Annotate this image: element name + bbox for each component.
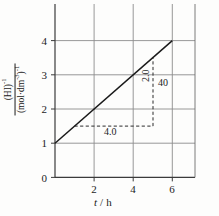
y-axis-fraction: (HI)-1 (mol·dm-3)-1 xyxy=(4,64,27,115)
y-axis-denominator-exponent: -3 xyxy=(13,74,20,79)
y-axis-denominator-tail: ) xyxy=(16,71,26,74)
chart-figure: 0 1 2 3 4 2 4 6 t / h (HI)-1 (mol·dm-3)-… xyxy=(0,0,219,216)
annotation-run-label: 4.0 xyxy=(104,127,117,137)
x-tick-label-4: 4 xyxy=(125,184,141,195)
y-axis-numerator-exponent: -1 xyxy=(0,79,7,84)
y-tick-label-4: 4 xyxy=(33,36,47,47)
y-axis-denominator-tail-exponent: -1 xyxy=(13,66,20,71)
y-tick-label-0: 0 xyxy=(33,173,47,184)
horizontal-gridlines xyxy=(55,41,195,144)
y-axis-numerator: (HI)-1 xyxy=(4,64,16,115)
x-tick-label-6: 6 xyxy=(164,184,180,195)
y-axis-title: (HI)-1 (mol·dm-3)-1 xyxy=(4,52,27,126)
x-tick-label-2: 2 xyxy=(86,184,102,195)
vertical-gridlines xyxy=(94,4,172,177)
x-axis-title: t / h xyxy=(94,196,112,208)
y-axis-numerator-text: (HI) xyxy=(3,84,13,100)
x-axis-unit: / h xyxy=(100,196,112,208)
annotation-slope-label: 40 xyxy=(158,78,168,88)
x-tick-marks xyxy=(94,177,172,181)
y-tick-label-3: 3 xyxy=(33,70,47,81)
axis-lines xyxy=(55,4,195,177)
annotation-rise-label: 2.0 xyxy=(141,70,151,83)
y-tick-label-1: 1 xyxy=(33,138,47,149)
y-axis-denominator-text: (mol·dm xyxy=(16,80,26,113)
y-tick-label-2: 2 xyxy=(33,104,47,115)
y-axis-denominator: (mol·dm-3)-1 xyxy=(16,64,27,115)
